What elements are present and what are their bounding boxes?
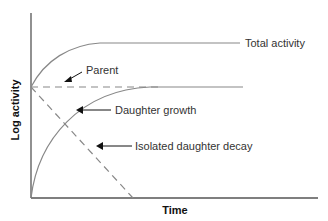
decay-arrow — [96, 142, 132, 150]
parent-arrow — [64, 72, 82, 82]
daughter-growth-label: Daughter growth — [115, 104, 196, 116]
decay-chart: Total activity Parent Daughter growth Is… — [0, 0, 328, 221]
x-axis-title: Time — [162, 204, 187, 216]
total-activity-curve — [31, 43, 240, 87]
parent-label: Parent — [86, 64, 118, 76]
y-axis-title: Log activity — [9, 79, 21, 141]
daughter-decay-label: Isolated daughter decay — [135, 140, 253, 152]
growth-arrow — [76, 106, 111, 114]
total-activity-label: Total activity — [245, 37, 305, 49]
